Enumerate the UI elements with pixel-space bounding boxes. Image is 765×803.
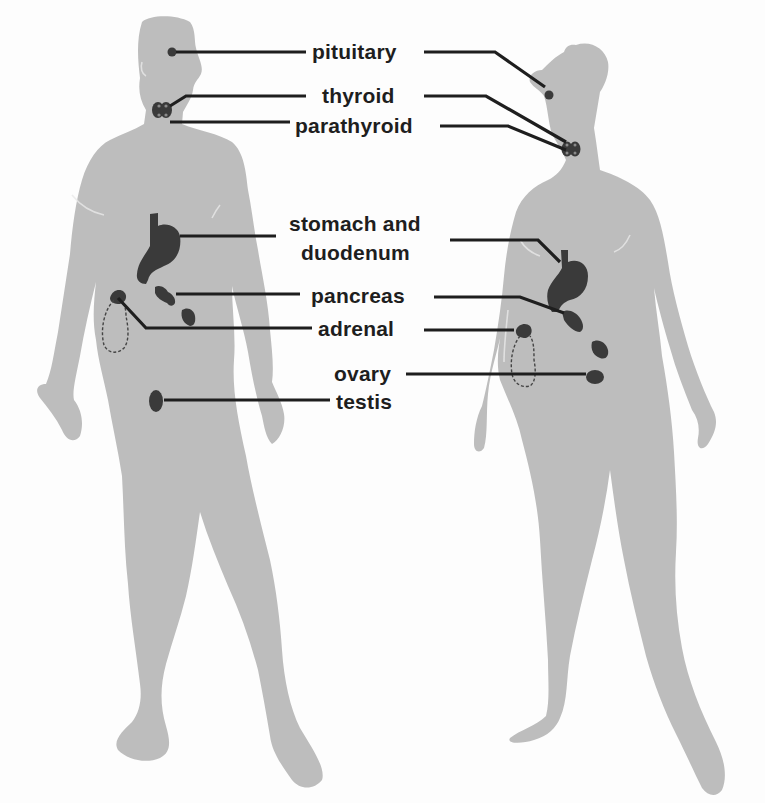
leader-pituitary-female bbox=[424, 52, 545, 87]
endocrine-diagram: pituitary thyroid parathyroid stomach an… bbox=[0, 0, 765, 803]
label-pituitary: pituitary bbox=[312, 39, 397, 65]
female-silhouette bbox=[474, 44, 725, 796]
label-adrenal: adrenal bbox=[318, 316, 394, 342]
female-figure bbox=[474, 44, 725, 796]
male-pituitary-gland bbox=[168, 48, 177, 57]
male-silhouette bbox=[37, 16, 323, 787]
male-thyroid-gland bbox=[152, 102, 172, 118]
label-parathyroid: parathyroid bbox=[295, 113, 413, 139]
label-stomach-line1: stomach and bbox=[289, 211, 421, 237]
female-ovary bbox=[586, 370, 604, 384]
leader-thyroid-male bbox=[170, 96, 306, 106]
label-testis: testis bbox=[336, 389, 392, 415]
label-ovary: ovary bbox=[334, 361, 391, 387]
label-thyroid: thyroid bbox=[322, 83, 395, 109]
male-testis bbox=[149, 390, 163, 412]
label-stomach-line2: duodenum bbox=[301, 240, 410, 266]
female-pituitary-gland bbox=[545, 91, 554, 100]
label-pancreas: pancreas bbox=[311, 283, 405, 309]
leader-thyroid-female bbox=[424, 96, 566, 142]
male-figure bbox=[37, 16, 323, 787]
